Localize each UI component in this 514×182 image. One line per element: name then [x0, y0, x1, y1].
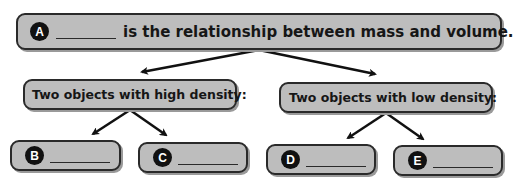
answer-box-c: C: [138, 142, 248, 173]
arrow-to-b: [93, 110, 130, 134]
label-badge-b: B: [25, 146, 44, 165]
answer-blank-b[interactable]: [50, 162, 110, 163]
answer-blank-d[interactable]: [306, 166, 366, 167]
arrow-to-c: [130, 110, 166, 135]
answer-blank-a[interactable]: [56, 38, 116, 39]
top-concept-text: is the relationship between mass and vol…: [123, 23, 514, 41]
arrow-to-d: [348, 113, 386, 138]
arrow-to-low: [259, 50, 375, 74]
arrow-to-e: [386, 113, 423, 139]
answer-box-e: E: [393, 145, 503, 176]
low-density-box: Two objects with low density:: [279, 82, 493, 113]
arrow-to-high: [142, 50, 259, 72]
high-density-box: Two objects with high density:: [23, 79, 237, 110]
low-density-text: Two objects with low density:: [289, 90, 497, 105]
answer-blank-c[interactable]: [178, 164, 238, 165]
top-concept-box: A is the relationship between mass and v…: [16, 13, 502, 50]
label-badge-a: A: [30, 22, 49, 41]
label-badge-e: E: [408, 151, 427, 170]
label-badge-c: C: [153, 148, 172, 167]
high-density-text: Two objects with high density:: [32, 87, 247, 102]
answer-box-d: D: [266, 144, 376, 175]
answer-blank-e[interactable]: [433, 167, 493, 168]
label-badge-d: D: [281, 150, 300, 169]
answer-box-b: B: [10, 140, 121, 171]
